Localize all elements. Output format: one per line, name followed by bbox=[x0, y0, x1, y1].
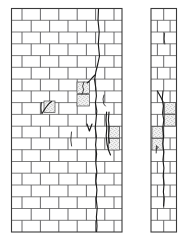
damage-left-lower bbox=[109, 127, 120, 139]
damage-right-mid bbox=[165, 115, 176, 127]
figure-root bbox=[0, 0, 184, 250]
masonry-wall-diagram bbox=[0, 0, 184, 250]
damage-right-upper bbox=[165, 103, 176, 115]
damage-left-upper-2 bbox=[77, 95, 90, 107]
damage-right-left bbox=[152, 127, 163, 139]
damage-left-lower-2 bbox=[109, 139, 120, 151]
